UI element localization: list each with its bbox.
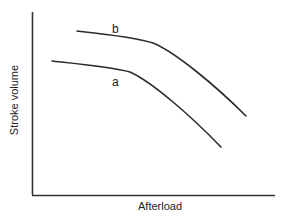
chart-canvas: b a Afterload Stroke volume [0, 0, 290, 220]
curve-b-label: b [112, 22, 119, 36]
curve-a-label: a [112, 75, 119, 89]
y-axis-label: Stroke volume [8, 65, 20, 135]
curve-b [77, 31, 246, 116]
curve-a [52, 61, 221, 147]
x-axis-label: Afterload [138, 200, 182, 212]
